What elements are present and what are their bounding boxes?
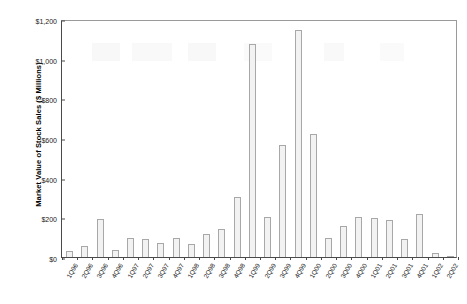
bar	[371, 218, 378, 257]
x-tick-label: 4Q97	[171, 262, 185, 279]
x-tick-label: 2Q97	[141, 262, 155, 279]
x-tick-mark	[62, 257, 63, 260]
x-tick-label: 4Q96	[110, 262, 124, 279]
x-tick-mark	[138, 257, 139, 260]
bar	[325, 238, 332, 257]
bar	[355, 217, 362, 257]
bar	[295, 30, 302, 257]
x-tick-mark	[306, 257, 307, 260]
bar	[173, 238, 180, 257]
bar	[279, 145, 286, 257]
x-tick-label: 3Q96	[95, 262, 109, 279]
x-tick-label: 4Q99	[293, 262, 307, 279]
bar	[203, 234, 210, 257]
y-tick-label: $400	[41, 176, 62, 183]
x-tick-label: 1Q98	[187, 262, 201, 279]
x-tick-label: 3Q99	[278, 262, 292, 279]
bar-chart-figure: Market Value of Stock Sales ($ Millions)…	[0, 0, 467, 304]
x-tick-mark	[230, 257, 231, 260]
x-tick-mark	[458, 257, 459, 260]
x-tick-mark	[260, 257, 261, 260]
x-tick-label: 4Q00	[354, 262, 368, 279]
x-tick-mark	[351, 257, 352, 260]
bar	[340, 226, 347, 257]
x-tick-mark	[245, 257, 246, 260]
x-tick-label: 3Q98	[217, 262, 231, 279]
y-tick-label: $0	[49, 256, 62, 263]
x-tick-label: 2Q99	[263, 262, 277, 279]
x-tick-label: 4Q01	[415, 262, 429, 279]
x-tick-mark	[184, 257, 185, 260]
x-tick-mark	[153, 257, 154, 260]
x-tick-label: 3Q01	[400, 262, 414, 279]
x-tick-mark	[428, 257, 429, 260]
bar	[249, 44, 256, 257]
x-tick-label: 3Q97	[156, 262, 170, 279]
bar	[386, 220, 393, 257]
x-tick-mark	[336, 257, 337, 260]
bar	[310, 134, 317, 257]
x-tick-label: 1Q97	[126, 262, 140, 279]
bar	[142, 239, 149, 257]
bar	[157, 243, 164, 257]
x-tick-mark	[290, 257, 291, 260]
x-tick-label: 3Q00	[339, 262, 353, 279]
y-tick-label: $600	[41, 137, 62, 144]
x-tick-label: 1Q01	[369, 262, 383, 279]
x-tick-mark	[275, 257, 276, 260]
x-tick-mark	[412, 257, 413, 260]
bar	[447, 256, 454, 257]
x-tick-mark	[397, 257, 398, 260]
bar	[112, 250, 119, 257]
bar	[66, 251, 73, 257]
bar	[416, 214, 423, 257]
x-tick-label: 2Q96	[80, 262, 94, 279]
x-tick-label: 1Q99	[247, 262, 261, 279]
x-tick-label: 2Q01	[385, 262, 399, 279]
x-tick-label: 1Q00	[308, 262, 322, 279]
bar	[127, 238, 134, 257]
bar	[218, 229, 225, 257]
x-tick-mark	[108, 257, 109, 260]
y-tick-label: $800	[41, 97, 62, 104]
x-tick-label: 1Q96	[65, 262, 79, 279]
bar	[401, 239, 408, 257]
bar	[97, 219, 104, 257]
x-tick-mark	[92, 257, 93, 260]
y-tick-label: $1,200	[36, 18, 62, 25]
x-tick-mark	[367, 257, 368, 260]
plot-area: $0$200$400$600$800$1,000$1,200 1Q962Q963…	[61, 20, 457, 258]
x-tick-label: 1Q02	[430, 262, 444, 279]
x-tick-mark	[169, 257, 170, 260]
bars-layer	[62, 21, 456, 257]
bar	[432, 253, 439, 257]
x-tick-mark	[123, 257, 124, 260]
y-tick-label: $200	[41, 216, 62, 223]
x-tick-mark	[77, 257, 78, 260]
x-tick-mark	[321, 257, 322, 260]
x-tick-label: 2Q98	[202, 262, 216, 279]
x-tick-mark	[443, 257, 444, 260]
bar	[234, 197, 241, 257]
x-tick-mark	[214, 257, 215, 260]
x-tick-mark	[382, 257, 383, 260]
bar	[188, 244, 195, 257]
x-tick-label: 2Q02	[445, 262, 459, 279]
bar	[264, 217, 271, 257]
bar	[81, 246, 88, 257]
x-tick-mark	[199, 257, 200, 260]
x-tick-label: 2Q00	[324, 262, 338, 279]
y-tick-label: $1,000	[36, 57, 62, 64]
x-tick-label: 4Q98	[232, 262, 246, 279]
